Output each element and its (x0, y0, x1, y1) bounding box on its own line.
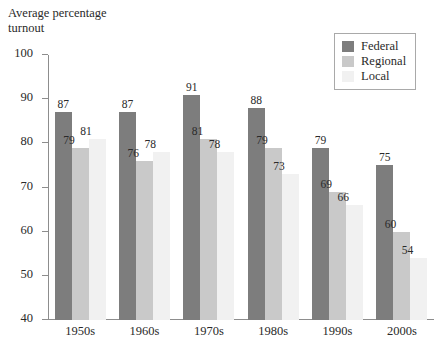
bar-group: 887973 (248, 55, 299, 320)
legend-swatch-local-icon (342, 71, 354, 82)
y-tick: 40 (42, 319, 48, 320)
y-tick: 60 (42, 231, 48, 232)
x-tick-label-1980s: 1980s (241, 324, 305, 339)
x-tick-label-1950s: 1950s (48, 324, 112, 339)
bar-group: 756054 (376, 55, 427, 320)
bar-regional-1960s (136, 161, 153, 320)
bar-chart: Average percentage turnout 1009080706050… (0, 0, 439, 357)
x-tick-label-1960s: 1960s (112, 324, 176, 339)
bar-value-label: 79 (310, 134, 331, 146)
y-tick: 100 (42, 54, 48, 55)
legend-item-local[interactable]: Local (342, 69, 406, 84)
plot-area: 100908070605040 877981877678918178887973… (48, 55, 434, 320)
bar-value-label: 54 (396, 244, 413, 256)
bar-value-label: 75 (374, 151, 395, 163)
bar-value-label: 88 (246, 94, 267, 106)
y-tick-label: 40 (21, 311, 34, 326)
y-tick: 50 (42, 275, 48, 276)
bar-regional-1970s (200, 139, 217, 320)
y-tick: 80 (42, 142, 48, 143)
bar-group: 877981 (55, 55, 106, 320)
bar-value-label: 81 (75, 125, 92, 137)
x-tick-label-1990s: 1990s (305, 324, 369, 339)
bar-local-1950s (89, 139, 106, 320)
bar-group: 877678 (119, 55, 170, 320)
bar-regional-1980s (265, 148, 282, 320)
bar-value-label: 78 (203, 138, 220, 150)
legend-swatch-federal-icon (342, 41, 354, 52)
bar-group: 796966 (312, 55, 363, 320)
y-axis-line (48, 55, 49, 320)
bar-federal-1990s (312, 148, 329, 320)
bar-local-1970s (217, 152, 234, 320)
y-tick: 90 (42, 98, 48, 99)
y-tick-label: 50 (21, 267, 34, 282)
y-tick-label: 70 (21, 179, 34, 194)
bar-federal-2000s (376, 165, 393, 320)
legend-label: Local (361, 69, 389, 84)
legend-item-regional[interactable]: Regional (342, 54, 406, 69)
legend-label: Regional (361, 54, 406, 69)
bar-value-label: 78 (139, 138, 156, 150)
y-tick-label: 90 (21, 90, 34, 105)
bar-value-label: 76 (122, 147, 139, 159)
y-tick-label: 60 (21, 223, 34, 238)
y-axis-title: Average percentage turnout (8, 6, 188, 36)
bar-value-label: 81 (186, 125, 203, 137)
legend-swatch-regional-icon (342, 56, 354, 67)
x-tick-label-2000s: 2000s (370, 324, 434, 339)
bar-federal-1960s (119, 112, 136, 320)
legend-item-federal[interactable]: Federal (342, 39, 406, 54)
legend: FederalRegionalLocal (334, 33, 416, 90)
bar-local-1980s (282, 174, 299, 320)
bar-value-label: 91 (181, 81, 202, 93)
bar-value-label: 87 (117, 98, 138, 110)
x-tick-label-1970s: 1970s (177, 324, 241, 339)
bar-value-label: 73 (268, 160, 285, 172)
y-tick-label: 80 (21, 134, 34, 149)
bar-value-label: 66 (332, 191, 349, 203)
bar-value-label: 69 (315, 178, 332, 190)
bar-regional-1950s (72, 148, 89, 320)
bar-value-label: 79 (58, 134, 75, 146)
y-tick: 70 (42, 187, 48, 188)
y-tick-label: 100 (14, 46, 33, 61)
bar-value-label: 79 (251, 134, 268, 146)
bar-value-label: 87 (53, 98, 74, 110)
bar-regional-1990s (329, 192, 346, 320)
bar-value-label: 60 (379, 218, 396, 230)
bar-group: 918178 (183, 55, 234, 320)
legend-label: Federal (361, 39, 398, 54)
bar-local-1960s (153, 152, 170, 320)
bar-local-1990s (346, 205, 363, 320)
bar-local-2000s (410, 258, 427, 320)
